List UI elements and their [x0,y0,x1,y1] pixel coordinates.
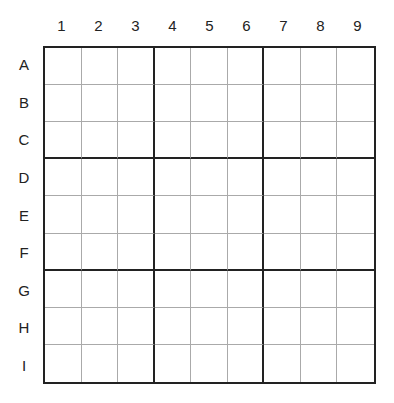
grid-cell[interactable] [155,234,192,271]
grid-cell[interactable] [228,122,265,159]
grid-cell[interactable] [301,308,338,345]
grid-cell[interactable] [118,122,155,159]
grid-cell[interactable] [264,196,301,233]
grid-cell[interactable] [155,85,192,122]
grid-cell[interactable] [45,196,82,233]
grid-cell[interactable] [301,271,338,308]
grid-cell[interactable] [155,271,192,308]
grid-cell[interactable] [82,308,119,345]
grid-cell[interactable] [228,271,265,308]
grid-cell[interactable] [228,234,265,271]
grid-cell[interactable] [118,271,155,308]
row-label: F [12,234,36,272]
column-label: 1 [43,14,80,38]
grid-cell[interactable] [45,159,82,196]
grid-cell[interactable] [82,48,119,85]
grid-cell[interactable] [337,308,374,345]
grid-cell[interactable] [82,196,119,233]
row-label: B [12,84,36,122]
grid-cell[interactable] [191,345,228,382]
grid-cell[interactable] [337,85,374,122]
grid-cell[interactable] [301,159,338,196]
grid-cell[interactable] [191,308,228,345]
grid-cell[interactable] [82,159,119,196]
grid-cell[interactable] [337,271,374,308]
grid-cell[interactable] [45,122,82,159]
grid-cell[interactable] [228,85,265,122]
grid-cell[interactable] [228,159,265,196]
grid-cell[interactable] [228,196,265,233]
grid-cell[interactable] [337,122,374,159]
grid-cell[interactable] [45,85,82,122]
grid-cell[interactable] [155,48,192,85]
column-label: 7 [265,14,302,38]
column-label: 3 [117,14,154,38]
grid-cell[interactable] [155,308,192,345]
row-labels: A B C D E F G H I [12,46,36,384]
grid-cell[interactable] [45,345,82,382]
grid-cell[interactable] [264,234,301,271]
row-label: G [12,271,36,309]
grid-cell[interactable] [191,234,228,271]
grid-cell[interactable] [118,234,155,271]
grid-cell[interactable] [301,345,338,382]
grid-cell[interactable] [191,271,228,308]
grid-cell[interactable] [155,196,192,233]
row-label: E [12,196,36,234]
grid-cell[interactable] [301,234,338,271]
grid-cell[interactable] [228,308,265,345]
grid-cell[interactable] [45,271,82,308]
grid-cell[interactable] [82,122,119,159]
grid-cell[interactable] [191,85,228,122]
row-label: H [12,309,36,347]
grid-cell[interactable] [264,345,301,382]
grid-cell[interactable] [337,234,374,271]
grid-cell[interactable] [301,48,338,85]
row-label: D [12,159,36,197]
grid-cell[interactable] [337,345,374,382]
grid-cell[interactable] [118,345,155,382]
grid-cell[interactable] [191,48,228,85]
grid-cell[interactable] [45,234,82,271]
column-label: 6 [228,14,265,38]
grid-cell[interactable] [155,345,192,382]
grid-cell[interactable] [301,122,338,159]
grid-cell[interactable] [264,308,301,345]
grid-cell[interactable] [264,85,301,122]
grid-cell[interactable] [191,159,228,196]
column-label: 8 [302,14,339,38]
column-label: 4 [154,14,191,38]
row-label: C [12,121,36,159]
grid-cell[interactable] [45,48,82,85]
row-label: A [12,46,36,84]
grid-cell[interactable] [337,196,374,233]
grid-cell[interactable] [118,196,155,233]
grid-cell[interactable] [155,122,192,159]
grid-cell[interactable] [264,122,301,159]
grid-cell[interactable] [337,159,374,196]
grid-cell[interactable] [301,85,338,122]
grid-cell[interactable] [264,159,301,196]
grid-cell[interactable] [82,271,119,308]
grid-cell[interactable] [228,48,265,85]
grid-cell[interactable] [228,345,265,382]
grid-cell[interactable] [264,48,301,85]
grid-cell[interactable] [82,85,119,122]
grid-cell[interactable] [191,122,228,159]
sudoku-grid [43,46,376,384]
column-label: 5 [191,14,228,38]
grid-cell[interactable] [118,48,155,85]
grid-cell[interactable] [82,345,119,382]
grid-cell[interactable] [337,48,374,85]
grid-cell[interactable] [118,85,155,122]
grid-cell[interactable] [118,308,155,345]
grid-cell[interactable] [264,271,301,308]
grid-cell[interactable] [45,308,82,345]
column-labels: 1 2 3 4 5 6 7 8 9 [43,14,376,38]
row-label: I [12,347,36,385]
grid-cell[interactable] [191,196,228,233]
grid-cell[interactable] [301,196,338,233]
grid-cell[interactable] [118,159,155,196]
grid-cell[interactable] [155,159,192,196]
grid-cell[interactable] [82,234,119,271]
